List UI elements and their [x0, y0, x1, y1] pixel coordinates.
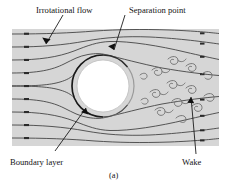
flow-arrow-marker: [24, 98, 29, 100]
flow-arrow-marker: [24, 72, 29, 74]
flow-arrow-marker: [200, 56, 205, 58]
flow-arrow-marker: [24, 137, 29, 139]
figure-canvas: Irrotational flow Separation point Bound…: [0, 0, 231, 181]
flow-arrow-marker: [200, 43, 205, 45]
flow-arrow-marker: [200, 115, 205, 117]
cylinder-body: [77, 60, 129, 112]
flow-arrow-marker: [200, 129, 205, 131]
flow-arrow-marker: [200, 99, 205, 101]
label-separation-point: Separation point: [129, 5, 186, 15]
label-boundary-layer: Boundary layer: [10, 157, 63, 167]
flow-past-cylinder-figure: Irrotational flow Separation point Bound…: [0, 0, 231, 181]
flow-arrow-marker: [24, 124, 29, 126]
cylinder: [72, 55, 134, 117]
figure-caption: (a): [109, 171, 119, 180]
flow-arrow-marker: [24, 59, 29, 61]
flow-arrow-marker: [24, 85, 29, 87]
flow-arrow-marker: [200, 32, 205, 34]
flow-arrow-marker: [24, 33, 29, 35]
flow-arrow-marker: [24, 46, 29, 48]
flow-arrow-marker: [24, 111, 29, 113]
flow-arrow-marker: [200, 139, 205, 141]
label-wake: Wake: [182, 157, 202, 167]
label-irrotational-flow: Irrotational flow: [36, 5, 93, 15]
